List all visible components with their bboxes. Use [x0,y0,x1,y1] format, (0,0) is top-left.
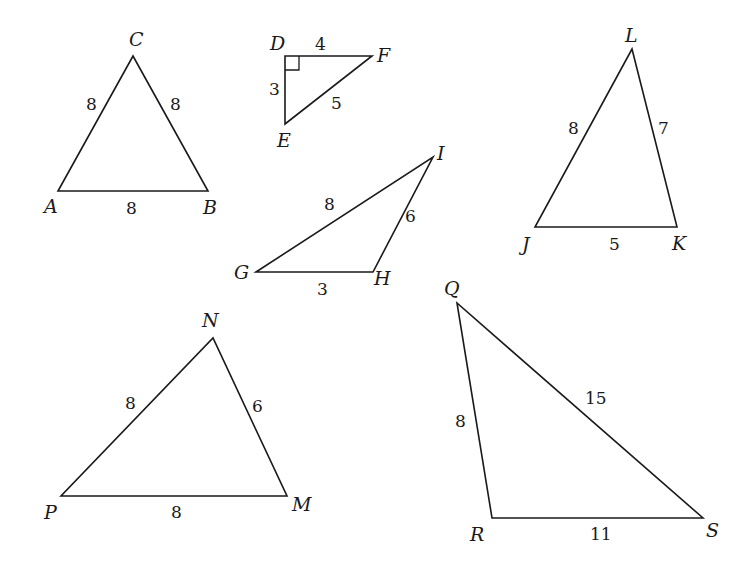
vertex-label-h: H [373,267,391,289]
vertex-label-k: K [671,232,688,254]
vertex-label-r: R [469,523,484,545]
side-label-cb: 8 [170,94,181,114]
vertex-label-n: N [201,309,220,331]
side-label-gh: 3 [317,279,328,299]
triangle-abc: C A B 8 8 8 [42,28,217,218]
triangle-mnp-shape [61,338,287,496]
vertex-label-q: Q [444,277,460,299]
side-label-de: 3 [269,79,280,99]
side-label-ef: 5 [331,93,342,113]
triangle-ghi: I G H 8 6 3 [234,142,445,299]
vertex-label-p: P [43,501,58,523]
side-label-qr: 8 [455,411,466,431]
vertex-label-b: B [202,196,217,218]
side-label-kl: 7 [658,118,669,138]
side-label-jl: 8 [568,118,579,138]
side-label-pm: 8 [171,502,182,522]
vertex-label-f: F [376,44,391,66]
triangle-jkl: L J K 8 7 5 [518,24,688,255]
triangle-jkl-shape [535,49,677,227]
vertex-label-d: D [269,32,285,54]
vertex-label-c: C [129,28,144,50]
right-angle-marker [285,56,299,70]
vertex-label-i: I [436,142,445,164]
side-label-jk: 5 [609,234,620,254]
triangle-def: D F E 4 3 5 [269,32,391,151]
triangle-mnp: N P M 8 6 8 [43,309,312,523]
triangle-abc-shape [58,56,208,191]
vertex-label-m: M [291,493,312,515]
vertex-label-e: E [276,129,291,151]
side-label-df: 4 [315,34,326,54]
side-label-pn: 8 [125,393,136,413]
triangles-figure: C A B 8 8 8 D F E 4 3 5 I G H 8 6 3 L J … [0,0,749,575]
side-label-hi: 6 [405,206,416,226]
side-label-qs: 15 [585,388,607,408]
vertex-label-l: L [624,24,638,46]
triangle-qrs: Q R S 8 15 11 [444,277,719,545]
vertex-label-a: A [42,195,58,217]
side-label-rs: 11 [590,524,612,544]
vertex-label-j: J [518,233,531,255]
side-label-ab: 8 [126,198,137,218]
vertex-label-s: S [706,519,719,541]
side-label-gi: 8 [324,194,335,214]
side-label-nm: 6 [252,396,263,416]
triangle-qrs-shape [457,303,703,518]
vertex-label-g: G [234,261,249,283]
side-label-ca: 8 [86,94,97,114]
triangle-def-shape [285,56,372,124]
